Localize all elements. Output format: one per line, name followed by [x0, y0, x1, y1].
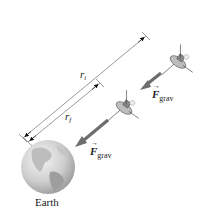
force-symbol: →F	[90, 145, 97, 157]
force-symbol: →F	[152, 88, 159, 100]
earth-label: Earth	[35, 196, 59, 208]
force-subscript: grav	[97, 151, 111, 160]
fgrav-label-initial: →Fgrav	[152, 84, 174, 103]
vector-arrow-icon: →	[153, 82, 160, 90]
fgrav-label-final: →Fgrav	[90, 141, 112, 160]
diagram-canvas: ri rf →Fgrav →Fgrav Earth	[0, 0, 207, 218]
rf-subscript: f	[69, 116, 71, 124]
ri-label: ri	[80, 68, 86, 82]
rf-dimension-line	[24, 79, 104, 146]
diagram-svg	[0, 0, 207, 218]
ri-dimension-line	[19, 32, 150, 142]
rf-label: rf	[65, 110, 71, 124]
ri-subscript: i	[84, 74, 86, 82]
satellite-icon-initial	[159, 44, 202, 89]
force-subscript: grav	[159, 94, 173, 103]
satellite-icon-final	[105, 90, 148, 135]
earth-icon	[21, 140, 75, 194]
vector-arrow-icon: →	[91, 139, 98, 147]
